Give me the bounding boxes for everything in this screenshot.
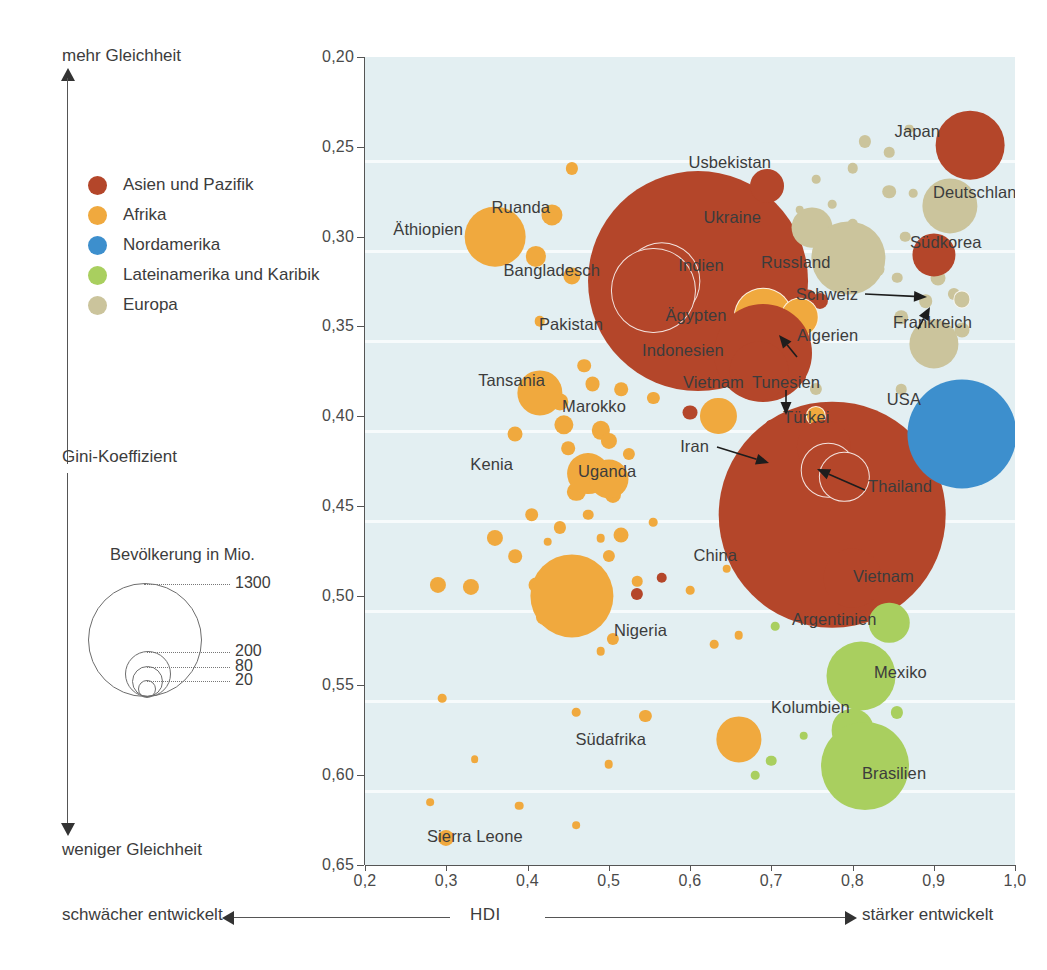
y-axis-tick-label: 0,60 (318, 766, 354, 784)
bubble-japan[interactable] (936, 111, 1005, 180)
legend-color-swatch-europa (88, 296, 107, 315)
point-label-sierra-leone: Sierra Leone (427, 827, 523, 846)
bubble-datapoint[interactable] (882, 185, 896, 199)
bubble-datapoint[interactable] (596, 647, 605, 656)
bubble-datapoint[interactable] (799, 731, 808, 740)
legend-item-lateinamerika[interactable]: Lateinamerika und Karibik (88, 260, 320, 290)
legend-item-asien[interactable]: Asien und Pazifik (88, 170, 320, 200)
legend-item-afrika[interactable]: Afrika (88, 200, 320, 230)
bubble-datapoint[interactable] (884, 147, 895, 158)
bubble-datapoint[interactable] (426, 798, 434, 806)
y-axis-bottom-note: weniger Gleichheit (62, 840, 202, 860)
legend-label-lateinamerika: Lateinamerika und Karibik (123, 265, 320, 285)
bubble-datapoint[interactable] (812, 175, 821, 184)
bubble-datapoint[interactable] (649, 518, 658, 527)
bubble-datapoint[interactable] (566, 162, 578, 174)
bubble-datapoint[interactable] (766, 756, 777, 767)
scatter-plot-area[interactable]: JapanDeutschlandSüdkoreaSchweizFrankreic… (365, 57, 1015, 865)
point-label-frankreich: Frankreich (893, 313, 972, 332)
bubble-datapoint[interactable] (891, 706, 903, 718)
bubble-datapoint[interactable] (515, 801, 524, 810)
x-axis-tick-label: 0,2 (354, 872, 377, 890)
legend-item-europa[interactable]: Europa (88, 290, 320, 320)
bubble-datapoint[interactable] (471, 755, 479, 763)
bubble-datapoint[interactable] (604, 760, 613, 769)
y-axis-tick (357, 775, 364, 776)
bubble-datapoint[interactable] (508, 427, 523, 442)
point-label--thiopien: Äthiopien (393, 220, 463, 239)
bubble-datapoint[interactable] (561, 442, 575, 456)
bubble-datapoint[interactable] (438, 694, 447, 703)
size-legend: Bevölkerung in Mio. 1300 200 80 20 (88, 545, 338, 735)
bubble-datapoint[interactable] (710, 640, 719, 649)
bubble-s-dafrika[interactable] (716, 717, 761, 762)
bubble-datapoint[interactable] (601, 433, 617, 449)
y-axis-tick-label: 0,30 (318, 228, 354, 246)
bubble-datapoint[interactable] (614, 382, 628, 396)
point-label-vietnam: Vietnam (853, 567, 914, 586)
x-axis-left-note: schwächer entwickelt (62, 905, 223, 925)
bubble-datapoint[interactable] (656, 572, 667, 583)
bubble-datapoint[interactable] (544, 537, 553, 546)
bubble-datapoint[interactable] (751, 771, 760, 780)
bubble-datapoint[interactable] (525, 508, 539, 522)
bubble-vietnam[interactable] (730, 342, 789, 401)
arrow-right-icon (845, 911, 857, 925)
bubble-datapoint[interactable] (919, 294, 933, 308)
bubble-usa[interactable] (908, 380, 1015, 489)
bubble-datapoint[interactable] (892, 273, 903, 284)
bubble-datapoint[interactable] (509, 549, 523, 563)
bubble-datapoint[interactable] (859, 135, 871, 147)
point-label-algerien: Algerien (797, 326, 858, 345)
bubble-datapoint[interactable] (487, 530, 503, 546)
bubble-datapoint[interactable] (631, 588, 643, 600)
bubble-datapoint[interactable] (909, 189, 918, 198)
bubble-datapoint[interactable] (554, 521, 566, 533)
y-axis-tick-label: 0,65 (318, 856, 354, 874)
arrow-left-icon (222, 911, 234, 925)
bubble-usbekistan[interactable] (750, 169, 784, 203)
bubble-datapoint[interactable] (847, 163, 858, 174)
bubble-datapoint[interactable] (613, 527, 628, 542)
bubble-datapoint[interactable] (572, 708, 581, 717)
x-axis-tick-label: 0,5 (597, 872, 620, 890)
bubble-datapoint[interactable] (623, 448, 635, 460)
legend-item-nordamerika[interactable]: Nordamerika (88, 230, 320, 260)
bubble-datapoint[interactable] (578, 359, 592, 373)
legend-color-swatch-lateinamerika (88, 266, 107, 285)
y-axis-tick (357, 57, 364, 58)
bubble-datapoint[interactable] (722, 564, 731, 573)
y-axis-line (364, 57, 365, 865)
bubble-datapoint[interactable] (585, 376, 600, 391)
bubble-datapoint[interactable] (639, 710, 651, 722)
bubble-marokko[interactable] (700, 398, 736, 434)
size-legend-title: Bevölkerung in Mio. (110, 545, 255, 564)
bubble-nigeria[interactable] (531, 554, 614, 637)
bubble-datapoint[interactable] (828, 200, 837, 209)
bubble-datapoint[interactable] (683, 405, 698, 420)
bubble-datapoint[interactable] (632, 576, 643, 587)
bubble-datapoint[interactable] (583, 510, 594, 521)
x-axis-tick (365, 865, 366, 871)
point-label-nigeria: Nigeria (614, 621, 667, 640)
y-axis-title: Gini-Koeffizient (62, 447, 177, 467)
bubble-datapoint[interactable] (596, 534, 605, 543)
bubble-datapoint[interactable] (771, 622, 780, 631)
point-label-bangladesch: Bangladesch (503, 261, 600, 280)
bubble-datapoint[interactable] (900, 231, 911, 242)
bubble-datapoint[interactable] (463, 579, 479, 595)
bubble-datapoint[interactable] (734, 631, 743, 640)
size-legend-leader-80 (147, 667, 230, 668)
bubble-datapoint[interactable] (572, 822, 580, 830)
bubble-datapoint[interactable] (430, 577, 446, 593)
bubble-schweiz[interactable] (954, 291, 971, 308)
point-label-s-dafrika: Südafrika (575, 730, 646, 749)
y-axis-tick (357, 326, 364, 327)
x-axis-tick-label: 0,8 (841, 872, 864, 890)
legend-label-europa: Europa (123, 295, 178, 315)
bubble-datapoint[interactable] (686, 586, 695, 595)
x-axis-left-line (234, 917, 450, 918)
x-axis-tick (446, 865, 447, 871)
bubble-datapoint[interactable] (647, 392, 659, 404)
bubble-datapoint[interactable] (603, 550, 615, 562)
